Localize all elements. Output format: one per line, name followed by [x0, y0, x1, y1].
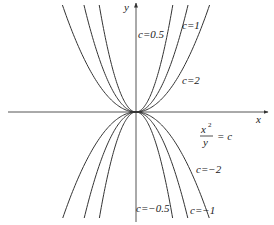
- y-axis-label: y: [123, 1, 129, 13]
- label-c-neg-2: c=−2: [196, 163, 222, 175]
- equation-exponent: 2: [208, 121, 212, 129]
- x-axis-label: x: [255, 113, 261, 125]
- equation-numerator: x: [200, 123, 206, 135]
- equation-label: x 2 y = c: [200, 121, 232, 148]
- label-c-1: c=1: [182, 19, 200, 31]
- label-c-2: c=2: [182, 74, 200, 86]
- equation-rhs: = c: [217, 130, 232, 142]
- equation-denominator: y: [202, 136, 208, 148]
- label-c-neg-1: c=−1: [190, 204, 215, 216]
- parabola-family-diagram: y x c=0.5 c=1 c=2 c=−2 c=−0.5 c=−1 x 2 y…: [0, 0, 274, 225]
- label-c-neg-0.5: c=−0.5: [136, 202, 170, 214]
- label-c-0.5: c=0.5: [138, 28, 165, 40]
